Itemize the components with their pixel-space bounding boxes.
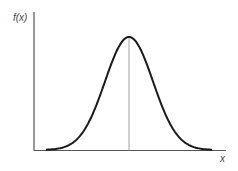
normal-curve-chart — [0, 0, 238, 171]
x-axis-label: x — [220, 153, 225, 164]
y-axis-label: f(x) — [13, 12, 27, 23]
